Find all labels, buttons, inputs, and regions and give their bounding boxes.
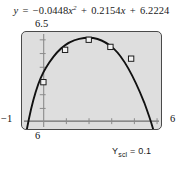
x-max-label: 6 — [170, 113, 175, 124]
scatter-plot-svg — [22, 32, 161, 129]
equation-lhs: y — [14, 5, 19, 16]
y-max-label: 6.5 — [35, 18, 48, 29]
x-min-label: 6 — [35, 130, 40, 141]
yscl-annotation: Yscl = 0.1 — [112, 146, 151, 156]
data-point-marker — [41, 80, 46, 85]
regression-equation-caption: y = −0.0448x2 + 0.2154x + 6.2224 — [0, 5, 183, 16]
y-min-label: −1 — [1, 113, 12, 124]
equation-term1-exponent: 2 — [73, 4, 77, 12]
data-point-markers — [41, 37, 134, 85]
calculator-graph-screen — [21, 31, 162, 130]
yscl-subscript: scl — [118, 151, 127, 158]
equation-plus-1: + — [79, 5, 88, 16]
equation-term2-coefficient: 0.2154 — [91, 5, 120, 16]
data-point-marker — [108, 44, 113, 49]
equation-term2-variable: x — [121, 5, 126, 16]
equation-equals: = — [21, 5, 30, 16]
yscl-value: = 0.1 — [127, 146, 151, 156]
data-point-marker — [62, 47, 67, 52]
equation-plus-2: + — [128, 5, 137, 16]
equation-term1-coefficient: −0.0448 — [33, 5, 69, 16]
data-point-marker — [86, 37, 91, 42]
data-point-marker — [128, 56, 133, 61]
equation-constant: 6.2224 — [140, 5, 169, 16]
